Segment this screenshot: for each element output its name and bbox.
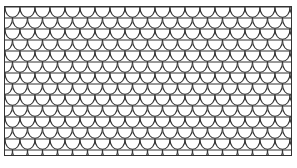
fish-scale-pattern	[5, 7, 292, 156]
scale-pattern-frame	[4, 6, 292, 156]
